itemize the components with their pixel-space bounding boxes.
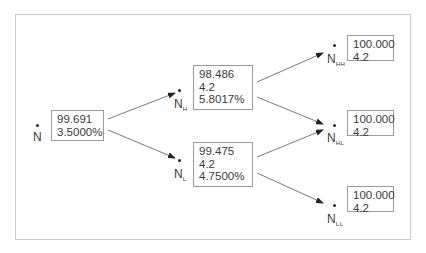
node-nl-dot bbox=[178, 159, 181, 162]
node-nh-label: NH bbox=[174, 98, 188, 115]
node-nhl-coupon: 4.2 bbox=[353, 126, 389, 139]
node-nhh-price: 100.000 bbox=[353, 38, 389, 51]
node-nll-label: NLL bbox=[327, 213, 343, 230]
node-n-dot bbox=[36, 124, 39, 127]
node-nh-price: 98.486 bbox=[199, 68, 248, 81]
node-nh-dot bbox=[178, 89, 181, 92]
node-nl-coupon: 4.2 bbox=[199, 158, 248, 171]
node-n-price: 99.691 bbox=[57, 113, 99, 126]
node-nhl-label: NHL bbox=[327, 132, 344, 149]
node-nhh-label: NHH bbox=[327, 53, 345, 70]
node-nll-dot bbox=[333, 204, 336, 207]
edge-nl-to-nll bbox=[257, 173, 323, 203]
node-n-values: 99.691 3.5000% bbox=[51, 110, 104, 141]
node-nh-coupon: 4.2 bbox=[199, 81, 248, 94]
node-nhh-coupon: 4.2 bbox=[353, 51, 389, 64]
node-nhl-dot bbox=[333, 124, 336, 127]
node-nh-values: 98.486 4.2 5.8017% bbox=[193, 65, 253, 110]
node-nl-values: 99.475 4.2 4.7500% bbox=[193, 142, 253, 187]
edge-n-to-nl bbox=[108, 130, 175, 158]
edge-nh-to-nhh bbox=[257, 53, 323, 82]
node-nhh-dot bbox=[333, 44, 336, 47]
node-nhh-values: 100.000 4.2 bbox=[347, 35, 394, 61]
node-nl-label: NL bbox=[174, 168, 187, 185]
edge-nh-to-nhl bbox=[257, 97, 323, 124]
node-nll-price: 100.000 bbox=[353, 189, 389, 202]
node-nhl-values: 100.000 4.2 bbox=[347, 110, 394, 136]
node-nll-values: 100.000 4.2 bbox=[347, 186, 394, 212]
node-nl-rate: 4.7500% bbox=[199, 170, 248, 183]
edge-n-to-nh bbox=[108, 93, 175, 119]
edge-nl-to-nhl bbox=[257, 130, 323, 157]
node-nh-rate: 5.8017% bbox=[199, 93, 248, 106]
node-n-rate: 3.5000% bbox=[57, 126, 99, 139]
node-n-label: N bbox=[33, 131, 42, 143]
node-nhl-price: 100.000 bbox=[353, 113, 389, 126]
node-nl-price: 99.475 bbox=[199, 145, 248, 158]
node-nll-coupon: 4.2 bbox=[353, 202, 389, 215]
